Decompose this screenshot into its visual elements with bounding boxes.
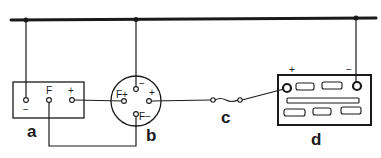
wire [75, 100, 125, 101]
terminal-a-f [47, 98, 52, 103]
terminal-b-plus [147, 99, 152, 104]
label-b-plus: + [149, 87, 155, 98]
battery-bar [287, 98, 359, 103]
label-b: b [146, 126, 156, 145]
component-c-fuse [215, 99, 238, 102]
label-d-plus: + [289, 64, 295, 75]
label-d: d [311, 130, 321, 149]
label-a-plus: + [68, 85, 74, 96]
wiring-diagram: − F + a − + F+ F− b c + − d [0, 0, 381, 158]
battery-cell [341, 107, 361, 114]
ground-bus [11, 18, 376, 20]
terminal-d-plus [283, 84, 291, 92]
battery-cell [322, 82, 342, 89]
label-b-fminus: F− [139, 111, 151, 122]
label-a-f: F [46, 85, 52, 96]
wire [49, 103, 136, 147]
terminal-b-fminus [134, 112, 139, 117]
label-b-minus: − [139, 78, 145, 89]
terminal-a-minus [24, 98, 29, 103]
terminal-b-minus [134, 87, 139, 92]
label-b-fplus: F+ [116, 89, 128, 100]
label-d-minus: − [346, 64, 352, 75]
terminal-a-plus [70, 98, 75, 103]
battery-cell [313, 108, 331, 115]
fuse-end [211, 98, 215, 102]
label-a: a [27, 122, 37, 141]
label-c: c [221, 108, 230, 127]
fuse-end [238, 98, 242, 102]
battery-cell [284, 109, 305, 116]
label-a-minus: − [23, 104, 29, 115]
battery-cell [296, 83, 314, 90]
terminal-d-minus [353, 82, 361, 90]
